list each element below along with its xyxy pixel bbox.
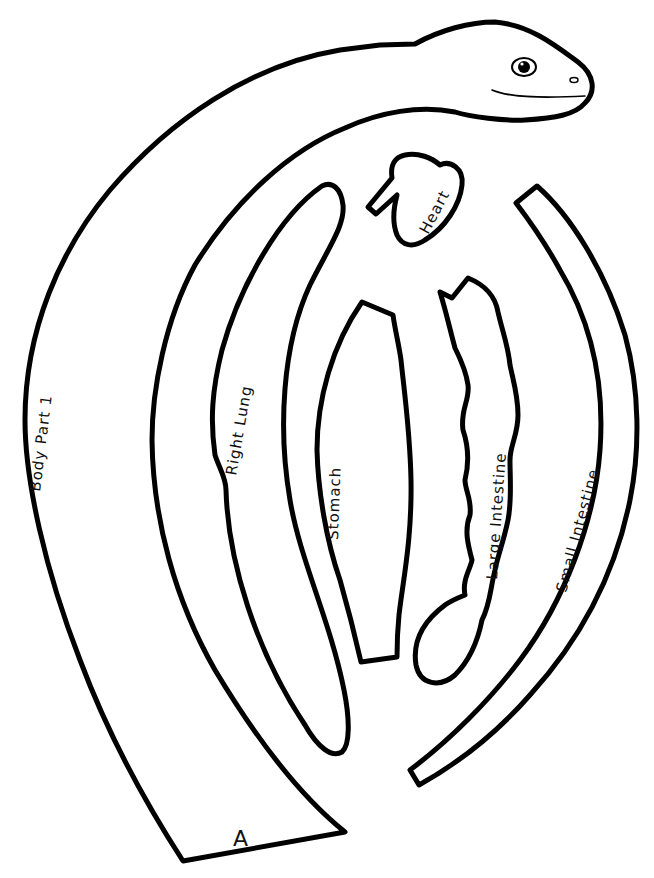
heart-piece: Heart (368, 154, 462, 245)
small-intestine-outline (410, 186, 637, 785)
stomach-piece: Stomach (317, 302, 411, 662)
tab-label-a: A (233, 826, 248, 851)
pupil-icon (518, 61, 530, 73)
anatomy-cutout-sheet: Body Part 1 A Heart Right Lung Stomach L… (0, 0, 654, 878)
small-intestine-piece: Small Intestine (410, 186, 637, 785)
eye-highlight-icon (520, 62, 523, 65)
stomach-label: Stomach (324, 466, 345, 540)
nostril-icon (570, 78, 578, 83)
large-intestine-piece: Large Intestine (415, 278, 518, 683)
